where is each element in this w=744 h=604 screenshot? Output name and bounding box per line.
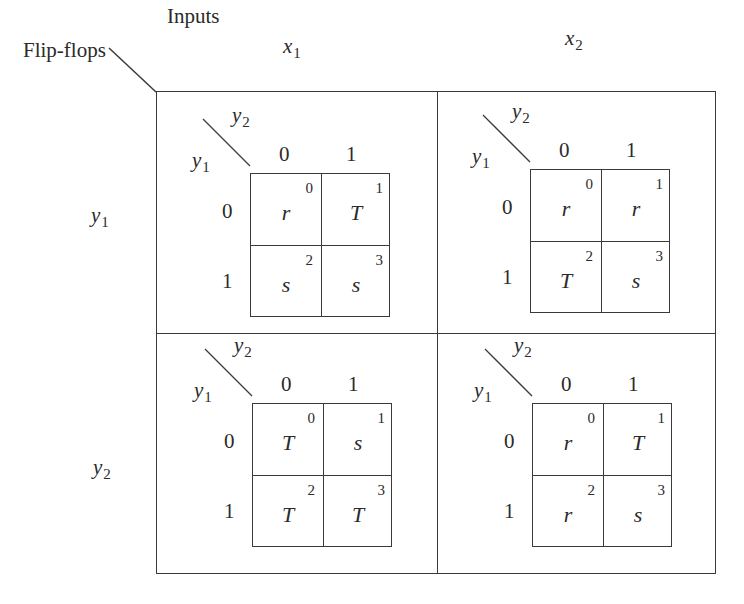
- kmap-col-1: 1: [348, 374, 359, 395]
- column-header-x2: x2: [565, 28, 583, 53]
- column-header-x1: x1: [283, 36, 301, 61]
- kmap-cell: T1: [603, 404, 673, 476]
- kmap-row-1: 1: [222, 271, 233, 292]
- row-header-y1: y1: [91, 205, 109, 230]
- kmap-col-0: 0: [281, 374, 292, 395]
- kmap-cell: r0: [533, 404, 603, 476]
- kmap-grid: T0 s1 T2 T3: [252, 403, 392, 547]
- kmap-col-1: 1: [346, 144, 357, 165]
- kmap-cell: r0: [531, 170, 601, 242]
- kmap-col-var: y2: [512, 101, 530, 126]
- kmap-col-0: 0: [559, 140, 570, 161]
- kmap-y1-x2: y2 y1 0 1 0 1 r0 r1 T2 s3: [430, 84, 720, 324]
- kmap-y2-x1: y2 y1 0 1 0 1 T0 s1 T2 T3: [152, 330, 442, 570]
- kmap-row-1: 1: [502, 267, 513, 288]
- kmap-col-1: 1: [628, 374, 639, 395]
- kmap-row-1: 1: [504, 501, 515, 522]
- kmap-cell: s3: [603, 476, 673, 548]
- kmap-row-0: 0: [222, 201, 233, 222]
- kmap-cell: s3: [321, 246, 391, 318]
- kmap-row-0: 0: [502, 197, 513, 218]
- kmap-y1-x1: y2 y1 0 1 0 1 r0 T1 s2 s3: [150, 88, 440, 328]
- kmap-col-var: y2: [514, 335, 532, 360]
- kmap-row-var: y1: [472, 146, 490, 171]
- kmap-grid: r0 T1 r2 s3: [532, 403, 672, 547]
- kmap-row-var: y1: [192, 150, 210, 175]
- kmap-row-0: 0: [504, 431, 515, 452]
- row-header-y2: y2: [93, 457, 111, 482]
- kmap-col-0: 0: [279, 144, 290, 165]
- kmap-cell: T1: [321, 174, 391, 246]
- kmap-row-var: y1: [194, 380, 212, 405]
- kmap-cell: T2: [531, 242, 601, 314]
- kmap-cell: T2: [253, 476, 323, 548]
- kmap-cell: T0: [253, 404, 323, 476]
- kmap-row-0: 0: [224, 431, 235, 452]
- kmap-col-var: y2: [232, 105, 250, 130]
- kmap-cell: s3: [601, 242, 671, 314]
- kmap-row-var: y1: [474, 380, 492, 405]
- kmap-cell: s2: [251, 246, 321, 318]
- kmap-cell: r1: [601, 170, 671, 242]
- kmap-col-0: 0: [561, 374, 572, 395]
- kmap-cell: r2: [533, 476, 603, 548]
- kmap-cell: s1: [323, 404, 393, 476]
- kmap-grid: r0 r1 T2 s3: [530, 169, 670, 313]
- kmap-y2-x2: y2 y1 0 1 0 1 r0 T1 r2 s3: [432, 330, 722, 570]
- kmap-col-var: y2: [234, 335, 252, 360]
- kmap-col-1: 1: [626, 140, 637, 161]
- kmap-cell: T3: [323, 476, 393, 548]
- kmap-cell: r0: [251, 174, 321, 246]
- kmap-row-1: 1: [224, 501, 235, 522]
- kmap-grid: r0 T1 s2 s3: [250, 173, 390, 317]
